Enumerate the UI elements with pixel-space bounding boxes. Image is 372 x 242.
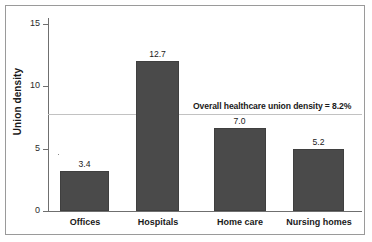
bar-value-hospitals: 12.7 [133, 50, 182, 59]
bar-value-offices: 3.4 [60, 160, 109, 169]
y-tick-label-5: 5 [10, 144, 40, 153]
y-tick-label-wrap-15: 15 [8, 19, 40, 29]
category-label-offices: Offices [45, 217, 125, 227]
y-tick-label-0: 0 [10, 206, 40, 215]
y-tick-label-wrap-5: 5 [8, 144, 40, 154]
category-label-hospitals: Hospitals [118, 217, 198, 227]
y-tick-label-wrap-10: 10 [8, 81, 40, 91]
bar-hospitals [136, 61, 179, 211]
y-tick-mark-15 [43, 24, 49, 25]
y-tick-label-10: 10 [10, 81, 40, 90]
category-label-home-care: Home care [200, 217, 280, 227]
y-tick-mark-10 [43, 86, 49, 87]
reference-line [48, 114, 362, 115]
bar-value-home-care: 7.0 [215, 117, 264, 126]
y-axis-line [48, 18, 49, 212]
bar-home-care [214, 128, 266, 211]
bar-value-nursing-homes: 5.2 [294, 138, 343, 147]
y-tick-mark-0 [43, 211, 49, 212]
y-tick-label-wrap-0: 0 [8, 206, 40, 216]
bar-nursing-homes [293, 149, 344, 211]
category-label-nursing-homes: Nursing homes [279, 217, 359, 227]
x-axis-line [48, 211, 362, 212]
y-tick-mark-5 [43, 149, 49, 150]
reference-line-annotation: Overall healthcare union density = 8.2% [193, 101, 351, 111]
y-tick-label-15: 15 [10, 19, 40, 28]
stray-mark [58, 154, 59, 155]
y-axis-title: Union density [12, 47, 23, 157]
bar-offices [60, 171, 109, 211]
chart-figure: Union density 15 10 5 0 Overall healthca… [0, 0, 372, 242]
